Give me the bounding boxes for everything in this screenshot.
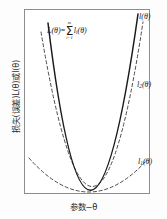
curve-label-l1: l1(θ) [138,157,152,166]
curve-label-l2-arg: (θ) [142,80,151,89]
formula-equals: = [61,26,66,35]
sum-lower-limit: i=1 [66,36,74,41]
curve-l1-path [29,158,147,192]
curve-label-l1-arg: (θ) [143,157,152,166]
formula-lhs: L(θ) [47,26,61,35]
loss-sum-formula: L(θ)= m Σ i=1 li(θ) [47,21,87,41]
loss-function-figure: 损失(误差)L(θ)或l(θ) L(θ)= m Σ i=1 li(θ) l(θ)… [0,0,167,219]
curve-l2-path [41,22,143,187]
y-axis-label-text: 损失(误差)L(θ)或l(θ) [11,60,21,133]
curve-label-l2: l2(θ) [137,80,151,89]
curve-label-total-arg: (θ) [141,12,150,21]
y-axis-label: 损失(误差)L(θ)或l(θ) [12,27,21,167]
x-axis-label: 参数−θ [0,200,167,212]
plot-area: L(θ)= m Σ i=1 li(θ) l(θ) l2(θ) l1(θ) [24,9,150,194]
curves-svg [25,10,151,195]
x-axis-label-text: 参数−θ [70,202,98,212]
formula-term-arg: (θ) [78,26,87,35]
summation-symbol-group: m Σ i=1 [66,21,74,41]
curve-label-total: l(θ) [139,12,151,21]
